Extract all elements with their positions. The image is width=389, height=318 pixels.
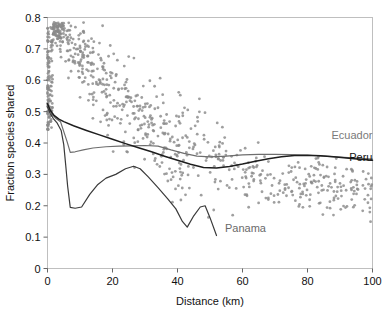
- y-tick-label-0.8: 0.8: [25, 12, 40, 24]
- series-label-panama: Panama: [225, 222, 267, 234]
- y-axis-title: Fraction species shared: [4, 85, 16, 202]
- scatter-plot: EcuadorPeruPanama02040608010000.10.20.30…: [0, 0, 389, 318]
- y-tick-label-0.2: 0.2: [25, 200, 40, 212]
- y-tick-label-0: 0: [34, 263, 40, 275]
- y-tick-label-0.4: 0.4: [25, 137, 40, 149]
- y-tick-label-0.1: 0.1: [25, 231, 40, 243]
- x-tick-label-60: 60: [236, 275, 248, 287]
- y-tick-label-0.3: 0.3: [25, 168, 40, 180]
- x-axis-title: Distance (km): [176, 295, 244, 307]
- x-tick-label-80: 80: [301, 275, 313, 287]
- x-tick-label-20: 20: [106, 275, 118, 287]
- y-tick-label-0.7: 0.7: [25, 43, 40, 55]
- y-tick-label-0.5: 0.5: [25, 106, 40, 118]
- plot-area-border: [48, 18, 373, 269]
- series-label-ecuador: Ecuador: [332, 129, 373, 141]
- x-tick-label-40: 40: [171, 275, 183, 287]
- chart-figure: EcuadorPeruPanama02040608010000.10.20.30…: [0, 0, 389, 318]
- x-tick-label-0: 0: [44, 275, 50, 287]
- x-tick-label-100: 100: [363, 275, 381, 287]
- series-label-peru: Peru: [349, 151, 372, 163]
- y-tick-label-0.6: 0.6: [25, 74, 40, 86]
